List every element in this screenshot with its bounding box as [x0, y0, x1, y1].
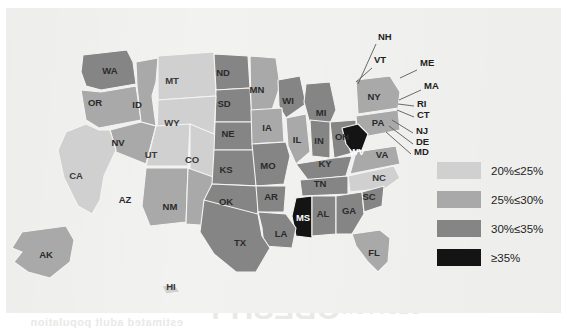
- state-label-wa: WA: [102, 65, 117, 76]
- state-label-ne: NE: [221, 128, 234, 139]
- state-label-mo: MO: [260, 160, 275, 171]
- callout-label-nj: NJ: [416, 125, 428, 136]
- state-label-mn: MN: [250, 84, 265, 95]
- figure-page: anaerobic bacteria in the gutof microbia…: [0, 0, 567, 333]
- state-label-nv: NV: [111, 137, 125, 148]
- state-label-ks: KS: [219, 164, 232, 175]
- legend-swatch-1: [437, 191, 481, 208]
- state-label-ca: CA: [69, 170, 83, 181]
- state-label-pa: PA: [372, 117, 385, 128]
- legend-swatch-3: [437, 249, 481, 266]
- legend-item-2[interactable]: 30%≤35%: [437, 218, 557, 239]
- state-label-ok: OK: [219, 196, 233, 207]
- state-label-ny: NY: [367, 91, 381, 102]
- state-label-mi: MI: [316, 107, 327, 118]
- state-label-fl: FL: [368, 247, 380, 258]
- callout-label-ri: RI: [417, 98, 427, 109]
- state-label-ak: AK: [39, 249, 53, 260]
- state-label-az: AZ: [119, 194, 132, 205]
- state-label-co: CO: [185, 154, 199, 165]
- state-label-al: AL: [317, 208, 330, 219]
- legend-item-3[interactable]: ≥35%: [437, 247, 557, 268]
- callout-label-nh: NH: [378, 31, 392, 42]
- legend-label-3: ≥35%: [491, 252, 520, 264]
- state-label-nc: NC: [372, 172, 386, 183]
- state-label-hi: HI: [166, 281, 176, 292]
- state-label-ia: IA: [262, 122, 272, 133]
- state-label-wv: WV: [349, 146, 365, 157]
- legend-label-1: 25%≤30%: [491, 194, 543, 206]
- state-label-sd: SD: [217, 98, 230, 109]
- state-label-wy: WY: [164, 117, 180, 128]
- state-label-ms: MS: [296, 212, 310, 223]
- callout-label-ma: MA: [424, 80, 439, 91]
- legend-label-2: 30%≤35%: [491, 223, 543, 235]
- state-label-nm: NM: [163, 201, 178, 212]
- state-label-nd: ND: [216, 67, 230, 78]
- state-ca[interactable]: [58, 124, 116, 214]
- state-label-tx: TX: [234, 237, 247, 248]
- callout-label-md: MD: [414, 146, 429, 157]
- state-label-va: VA: [376, 149, 389, 160]
- callout-label-vt: VT: [374, 54, 386, 65]
- state-label-il: IL: [293, 134, 302, 145]
- legend-swatch-2: [437, 220, 481, 237]
- legend-item-0[interactable]: 20%≤25%: [437, 160, 557, 181]
- state-label-oh: OH: [335, 131, 349, 142]
- callout-label-ct: CT: [417, 109, 430, 120]
- state-label-id: ID: [132, 99, 142, 110]
- state-label-tn: TN: [314, 178, 327, 189]
- state-label-sc: SC: [362, 191, 375, 202]
- state-label-mt: MT: [165, 75, 179, 86]
- state-label-or: OR: [88, 97, 102, 108]
- callout-label-me: ME: [420, 57, 434, 68]
- legend-swatch-0: [437, 162, 481, 179]
- state-label-ut: UT: [145, 149, 158, 160]
- state-label-la: LA: [275, 228, 288, 239]
- state-label-wi: WI: [282, 95, 294, 106]
- state-label-ar: AR: [264, 191, 278, 202]
- state-label-ga: GA: [342, 205, 356, 216]
- state-label-in: IN: [314, 135, 324, 146]
- state-label-ky: KY: [318, 158, 332, 169]
- legend: 20%≤25%25%≤30%30%≤35%≥35%: [437, 160, 557, 276]
- state-az[interactable]: [142, 168, 188, 226]
- legend-label-0: 20%≤25%: [491, 165, 543, 177]
- legend-item-1[interactable]: 25%≤30%: [437, 189, 557, 210]
